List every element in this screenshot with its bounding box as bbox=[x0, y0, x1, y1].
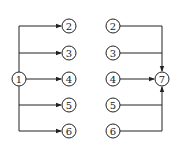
node-label: 1 bbox=[16, 74, 22, 85]
arrowhead-down-icon bbox=[160, 66, 164, 72]
arrowhead-right-icon bbox=[56, 77, 62, 81]
arrowhead-right-icon bbox=[149, 77, 155, 81]
arrowhead-up-icon bbox=[160, 86, 164, 92]
node-label: 7 bbox=[159, 74, 165, 85]
node-4: 4 bbox=[106, 72, 120, 86]
node-label: 5 bbox=[66, 100, 72, 111]
node-label: 2 bbox=[66, 21, 72, 32]
node-label: 4 bbox=[66, 74, 72, 85]
split-diagram: 234561 bbox=[12, 19, 76, 138]
node-label: 2 bbox=[110, 21, 116, 32]
merge-diagram: 234567 bbox=[106, 19, 169, 138]
node-3: 3 bbox=[62, 46, 76, 60]
node-5: 5 bbox=[62, 98, 76, 112]
node-label: 6 bbox=[110, 126, 116, 137]
node-6: 6 bbox=[106, 124, 120, 138]
node-label: 4 bbox=[110, 74, 116, 85]
arrowhead-right-icon bbox=[56, 103, 62, 107]
node-label: 6 bbox=[66, 126, 72, 137]
node-3: 3 bbox=[106, 46, 120, 60]
arrowhead-right-icon bbox=[56, 129, 62, 133]
node-label: 5 bbox=[110, 100, 116, 111]
node-7: 7 bbox=[155, 72, 169, 86]
arrowhead-right-icon bbox=[56, 24, 62, 28]
node-1: 1 bbox=[12, 72, 26, 86]
node-label: 3 bbox=[110, 48, 116, 59]
arrowhead-right-icon bbox=[56, 51, 62, 55]
node-4: 4 bbox=[62, 72, 76, 86]
flow-diagram-canvas: 234561 234567 bbox=[0, 0, 180, 150]
node-2: 2 bbox=[106, 19, 120, 33]
node-2: 2 bbox=[62, 19, 76, 33]
node-label: 3 bbox=[66, 48, 72, 59]
node-6: 6 bbox=[62, 124, 76, 138]
node-5: 5 bbox=[106, 98, 120, 112]
